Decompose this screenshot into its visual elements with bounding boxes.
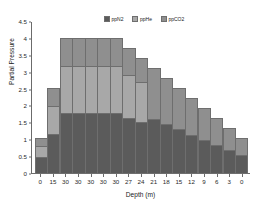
x-axis-tick-label: 15	[173, 174, 186, 190]
bar-column	[224, 22, 235, 173]
bar-segment-ppn2	[48, 135, 59, 173]
bar-segment-ppco2	[161, 79, 172, 125]
bar-segment-ppco2	[136, 59, 147, 83]
bar-segment-ppn2	[199, 141, 210, 173]
bar-column	[136, 22, 147, 173]
bar-column	[123, 22, 134, 173]
bar-segment-ppco2	[211, 119, 222, 146]
legend-label-ppco2: ppCO2	[168, 17, 184, 22]
bar-segment-ppco2	[86, 39, 97, 68]
y-axis-tick-label: 1.5	[18, 120, 27, 126]
bar-segment-ppn2	[224, 151, 235, 173]
y-axis-tick-label: 3.5	[18, 53, 27, 59]
plot-area	[31, 22, 250, 174]
bar-segment-ppco2	[148, 69, 159, 120]
bar-segment-ppn2	[36, 158, 47, 173]
bar-segment-ppn2	[111, 114, 122, 173]
bar-column	[161, 22, 172, 173]
bar-segment-ppn2	[136, 123, 147, 173]
x-axis-title: Depth (m)	[31, 191, 250, 198]
x-axis-tick-label: 27	[122, 174, 135, 190]
bar-segment-pphe	[111, 67, 122, 113]
bar-segment-ppn2	[161, 125, 172, 173]
bar-segment-ppco2	[36, 139, 47, 146]
bar-series-group	[32, 22, 250, 173]
bar-segment-ppco2	[199, 109, 210, 141]
bar-segment-pphe	[98, 67, 109, 113]
bar-column	[211, 22, 222, 173]
x-axis-tick-label: 21	[147, 174, 160, 190]
x-axis-tick-label: 0	[34, 174, 47, 190]
bar-column	[36, 22, 47, 173]
bar-segment-ppco2	[173, 89, 184, 130]
bar-segment-ppn2	[186, 136, 197, 173]
x-axis-tick-label: 12	[185, 174, 198, 190]
y-axis-title: Partial Pressure	[8, 7, 15, 117]
x-axis-tick-label: 15	[47, 174, 60, 190]
x-axis-tick-label: 30	[72, 174, 85, 190]
bar-column	[199, 22, 210, 173]
bar-column	[236, 22, 247, 173]
x-axis-tick-label: 18	[160, 174, 173, 190]
bar-segment-ppn2	[98, 114, 109, 173]
bar-column	[98, 22, 109, 173]
bar-segment-ppco2	[73, 39, 84, 68]
bar-segment-ppco2	[48, 89, 59, 106]
bar-segment-ppn2	[173, 130, 184, 173]
y-axis-tick-label: 0.5	[18, 154, 27, 160]
bar-segment-pphe	[136, 83, 147, 123]
y-axis-tick-label: 4.5	[18, 19, 27, 25]
bar-segment-ppco2	[111, 39, 122, 68]
x-axis-tick-label: 30	[110, 174, 123, 190]
bar-segment-ppn2	[123, 119, 134, 173]
bar-column	[73, 22, 84, 173]
bar-column	[186, 22, 197, 173]
bar-segment-ppn2	[211, 146, 222, 173]
bar-segment-pphe	[73, 67, 84, 113]
x-axis-tick-label: 6	[210, 174, 223, 190]
bar-segment-ppco2	[98, 39, 109, 68]
bar-column	[48, 22, 59, 173]
bar-column	[173, 22, 184, 173]
x-axis-tick-label: 30	[84, 174, 97, 190]
bar-segment-pphe	[48, 107, 59, 136]
legend-label-pphe: ppHe	[140, 17, 152, 22]
bar-segment-ppn2	[61, 114, 72, 173]
legend-label-ppn2: ppN2	[112, 17, 124, 22]
bar-segment-pphe	[123, 76, 134, 119]
bar-segment-ppn2	[148, 120, 159, 173]
bar-column	[111, 22, 122, 173]
y-axis-tick-label: 1	[24, 137, 27, 143]
bar-segment-ppco2	[224, 129, 235, 151]
bar-segment-ppn2	[236, 156, 247, 173]
y-axis-tick-label: 0	[24, 171, 27, 177]
y-axis-tick-label: 2.5	[18, 86, 27, 92]
y-axis-tick-label: 2	[24, 103, 27, 109]
y-axis-tick-label: 3	[24, 70, 27, 76]
x-axis-tick-label: 0	[236, 174, 249, 190]
bar-column	[61, 22, 72, 173]
x-axis-tick-label: 3	[223, 174, 236, 190]
x-axis-tick-label: 30	[59, 174, 72, 190]
bar-segment-ppn2	[86, 114, 97, 173]
bar-segment-ppco2	[123, 49, 134, 76]
x-axis-tick-label: 30	[97, 174, 110, 190]
x-axis-tick-label: 24	[135, 174, 148, 190]
bar-segment-ppn2	[73, 114, 84, 173]
bar-segment-pphe	[86, 67, 97, 113]
y-axis-tick-label: 4	[24, 36, 27, 42]
x-axis-ticks: 01530303030302724211815129630	[31, 174, 250, 190]
bar-segment-ppco2	[236, 139, 247, 155]
bar-segment-ppco2	[61, 39, 72, 68]
bar-segment-pphe	[36, 147, 47, 158]
bar-column	[86, 22, 97, 173]
x-axis-tick-label: 9	[198, 174, 211, 190]
y-axis-ticks: 00.511.522.533.544.5	[0, 22, 31, 174]
bar-segment-ppco2	[186, 99, 197, 136]
chart-container: ppN2 ppHe ppCO2 00.511.522.533.544.5 Par…	[0, 0, 256, 207]
bar-segment-pphe	[61, 67, 72, 113]
bar-column	[148, 22, 159, 173]
